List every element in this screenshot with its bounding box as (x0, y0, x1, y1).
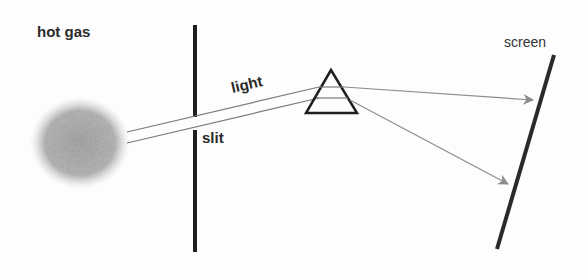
light-beam-upper-edge (127, 87, 319, 132)
hot-gas-label: hot gas (37, 24, 90, 39)
dispersed-ray-upper-arrow (344, 87, 533, 100)
diagram-drawing (0, 0, 588, 279)
screen-label: screen (504, 35, 546, 49)
hot-gas-cloud (30, 97, 130, 189)
screen-plate (497, 55, 554, 249)
spectroscopy-diagram: hot gas light slit screen (0, 0, 588, 279)
slit-label: slit (202, 130, 224, 145)
prism-triangle (306, 70, 357, 113)
dispersed-ray-lower-arrow (350, 100, 508, 184)
